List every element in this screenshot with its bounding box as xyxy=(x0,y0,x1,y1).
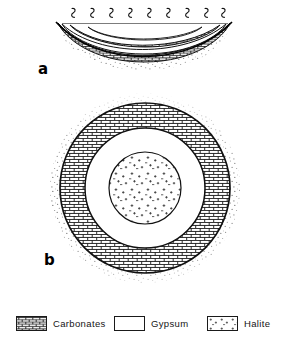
panel-b-plan-view xyxy=(0,90,285,295)
cross-section-layer-halite xyxy=(88,27,202,40)
panel-label-a: a xyxy=(38,62,48,77)
legend-label-carbonates: Carbonates xyxy=(53,318,106,329)
legend-item-gypsum: Gypsum xyxy=(114,316,188,331)
legend-item-carbonates: Carbonates xyxy=(16,316,106,331)
plan-view-drawing xyxy=(0,90,285,295)
legend-label-gypsum: Gypsum xyxy=(151,318,188,329)
legend-item-halite: Halite xyxy=(207,316,270,331)
gypsum-swatch xyxy=(114,316,145,331)
figure-root: a b xyxy=(0,0,285,352)
carbonates-swatch xyxy=(16,316,47,331)
evaporation-squiggle-icon-group xyxy=(72,8,225,17)
panel-label-b: b xyxy=(44,253,55,268)
plan-ring-halite xyxy=(109,152,181,224)
legend-label-halite: Halite xyxy=(244,318,270,329)
legend: Carbonates Gypsum Halite xyxy=(0,310,285,344)
halite-swatch xyxy=(207,316,238,331)
